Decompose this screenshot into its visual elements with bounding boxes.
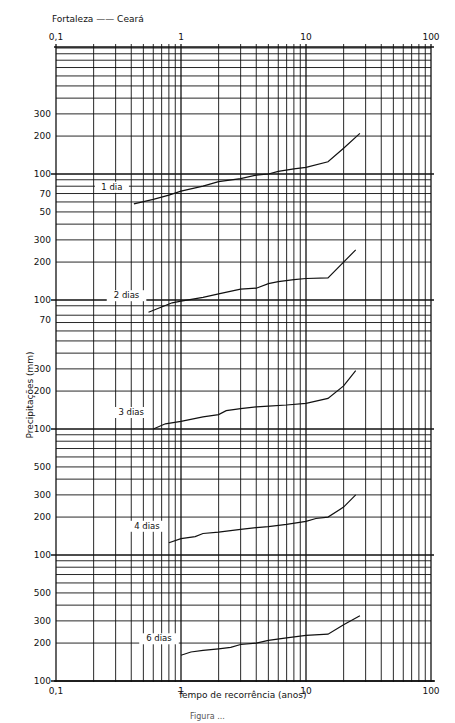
svg-text:300: 300: [34, 235, 51, 245]
svg-text:200: 200: [34, 386, 51, 396]
figure-caption: Figura ...: [190, 712, 225, 721]
svg-text:2 dias: 2 dias: [114, 290, 140, 300]
svg-text:100: 100: [34, 169, 51, 179]
chart-title: Fortaleza —— Ceará: [52, 14, 144, 24]
svg-text:200: 200: [34, 638, 51, 648]
svg-text:0,1: 0,1: [49, 32, 63, 42]
curve-4-dias: [169, 495, 356, 543]
svg-text:1: 1: [178, 32, 184, 42]
svg-text:300: 300: [34, 109, 51, 119]
svg-text:6 dias: 6 dias: [146, 633, 172, 643]
svg-text:10: 10: [300, 32, 312, 42]
svg-text:100: 100: [422, 686, 439, 696]
svg-text:200: 200: [34, 257, 51, 267]
svg-text:500: 500: [34, 588, 51, 598]
curve-2-dias: [149, 250, 356, 312]
svg-text:200: 200: [34, 131, 51, 141]
svg-text:70: 70: [40, 189, 52, 199]
svg-text:100: 100: [34, 550, 51, 560]
svg-text:300: 300: [34, 616, 51, 626]
curve-6-dias: [181, 616, 360, 656]
svg-text:3 dias: 3 dias: [119, 407, 145, 417]
svg-text:50: 50: [40, 207, 52, 217]
svg-text:1 dia: 1 dia: [101, 182, 122, 192]
svg-text:300: 300: [34, 490, 51, 500]
svg-text:500: 500: [34, 462, 51, 472]
svg-text:100: 100: [422, 32, 439, 42]
svg-text:100: 100: [34, 676, 51, 686]
svg-text:100: 100: [34, 424, 51, 434]
svg-text:200: 200: [34, 512, 51, 522]
x-axis-label: Tempo de recorrência (anos): [178, 690, 307, 700]
curve-3-dias: [153, 371, 355, 429]
svg-text:300: 300: [34, 364, 51, 374]
svg-text:100: 100: [34, 295, 51, 305]
svg-text:70: 70: [40, 315, 52, 325]
svg-text:4 dias: 4 dias: [134, 521, 160, 531]
y-axis-label: Precipitações (mm): [25, 325, 35, 465]
rainfall-frequency-chart: 30020010070501 dia300200100702 dias30020…: [0, 0, 455, 723]
svg-text:0,1: 0,1: [49, 686, 63, 696]
